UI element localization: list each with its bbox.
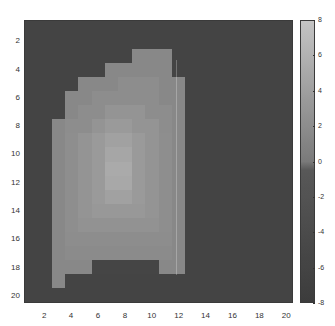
y-tick-label: 14 [6, 206, 20, 215]
heatmap-cell [265, 162, 278, 176]
heatmap-cell [252, 91, 265, 105]
x-tick-label: 12 [169, 311, 189, 320]
heatmap-cell [78, 218, 91, 232]
heatmap-cell [92, 218, 105, 232]
heatmap-cell [25, 63, 38, 77]
heatmap-cell [118, 91, 131, 105]
heatmap-cell [25, 162, 38, 176]
heatmap-cell [92, 147, 105, 161]
heatmap-cell [25, 91, 38, 105]
heatmap-cell [239, 147, 252, 161]
heatmap-cell [132, 260, 145, 274]
heatmap-cell [78, 133, 91, 147]
heatmap-cell [252, 288, 265, 302]
heatmap-cell [225, 288, 238, 302]
heatmap-cell [225, 218, 238, 232]
heatmap-cell [118, 147, 131, 161]
colorbar-tick-mark [313, 232, 315, 233]
heatmap-cell [25, 288, 38, 302]
heatmap-cell [212, 176, 225, 190]
heatmap-cell [265, 119, 278, 133]
heatmap-cell [172, 218, 185, 232]
heatmap-cell [239, 274, 252, 288]
heatmap-cell [65, 260, 78, 274]
heatmap-cell [52, 162, 65, 176]
heatmap-cell [92, 260, 105, 274]
heatmap-cell [265, 105, 278, 119]
heatmap-cell [172, 49, 185, 63]
heatmap-cell [145, 288, 158, 302]
heatmap-cell [52, 91, 65, 105]
heatmap-cell [132, 91, 145, 105]
heatmap-cell [38, 176, 51, 190]
heatmap-cell [145, 232, 158, 246]
heatmap-cell [225, 232, 238, 246]
heatmap-cell [172, 204, 185, 218]
heatmap-cell [92, 21, 105, 35]
heatmap-cell [38, 246, 51, 260]
heatmap-cell [279, 274, 292, 288]
heatmap-cell [132, 147, 145, 161]
heatmap-cell [145, 63, 158, 77]
colorbar-tick-mark [313, 20, 315, 21]
x-tick-label: 16 [222, 311, 242, 320]
heatmap-cell [38, 190, 51, 204]
heatmap-cell [252, 63, 265, 77]
heatmap-cell [199, 218, 212, 232]
heatmap-cell [118, 105, 131, 119]
heatmap-cell [199, 21, 212, 35]
heatmap-cell [279, 147, 292, 161]
heatmap-cell [92, 288, 105, 302]
heatmap-cell [159, 91, 172, 105]
heatmap-cell [185, 147, 198, 161]
heatmap-cell [185, 288, 198, 302]
heatmap-cell [252, 204, 265, 218]
heatmap-cell [145, 133, 158, 147]
heatmap-cell [132, 133, 145, 147]
heatmap-cell [52, 63, 65, 77]
heatmap-cell [159, 35, 172, 49]
colorbar-tick-mark [313, 303, 315, 304]
heatmap-cell [239, 218, 252, 232]
heatmap-cell [25, 133, 38, 147]
heatmap-cell [65, 274, 78, 288]
heatmap-cell [239, 162, 252, 176]
heatmap-cell [118, 133, 131, 147]
heatmap-cell [25, 147, 38, 161]
heatmap-cell [52, 133, 65, 147]
heatmap-cell [145, 147, 158, 161]
heatmap-cell [212, 190, 225, 204]
heatmap-cell [92, 190, 105, 204]
heatmap-cell [225, 63, 238, 77]
heatmap-cell [105, 176, 118, 190]
heatmap-cell [105, 119, 118, 133]
heatmap-cell [132, 77, 145, 91]
heatmap-cell [78, 246, 91, 260]
heatmap-cell [252, 274, 265, 288]
heatmap-cell [92, 77, 105, 91]
heatmap-cell [159, 63, 172, 77]
colorbar-tick-label: -6 [318, 264, 324, 271]
heatmap-cell [105, 162, 118, 176]
heatmap-cell [25, 246, 38, 260]
heatmap-cell [145, 77, 158, 91]
heatmap-cell [212, 119, 225, 133]
heatmap-cell [105, 218, 118, 232]
heatmap-cell [279, 232, 292, 246]
y-tick-label: 4 [6, 65, 20, 74]
heatmap-cell [225, 49, 238, 63]
heatmap-cell [118, 218, 131, 232]
heatmap-cell [132, 105, 145, 119]
heatmap-cell [38, 162, 51, 176]
heatmap-cell [105, 133, 118, 147]
heatmap-cell [212, 147, 225, 161]
heatmap-cell [279, 190, 292, 204]
heatmap-cell [52, 218, 65, 232]
heatmap-cell [25, 204, 38, 218]
heatmap-cell [65, 77, 78, 91]
heatmap-cell [279, 35, 292, 49]
heatmap-cell [212, 232, 225, 246]
heatmap-cell [172, 288, 185, 302]
heatmap-cell [25, 274, 38, 288]
heatmap-cell [265, 274, 278, 288]
